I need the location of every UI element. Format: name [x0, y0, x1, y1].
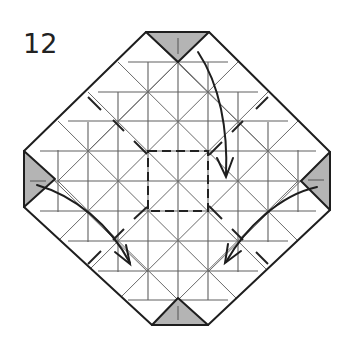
- paper-shape: [24, 32, 330, 325]
- origami-diagram: [0, 0, 357, 342]
